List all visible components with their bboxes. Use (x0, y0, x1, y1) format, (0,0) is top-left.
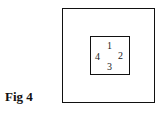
label-left: 4 (95, 52, 100, 62)
label-top: 1 (107, 41, 112, 51)
figure-caption: Fig 4 (5, 89, 33, 105)
label-right: 2 (118, 51, 123, 61)
label-bottom: 3 (107, 62, 112, 72)
